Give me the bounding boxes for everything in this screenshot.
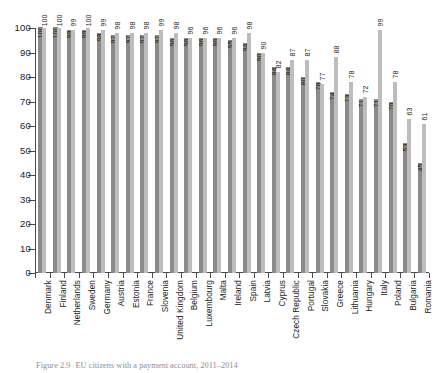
bar-2014[interactable]: 99 xyxy=(159,30,163,273)
bar-2014[interactable]: 98 xyxy=(144,33,148,273)
x-axis-tick xyxy=(268,273,269,278)
bar-2014[interactable]: 100 xyxy=(42,28,46,273)
x-axis-label-romania: Romania xyxy=(425,280,433,313)
bar-group[interactable]: 9798 xyxy=(108,28,123,273)
bar-value-label: 99 xyxy=(376,19,383,27)
bar-value-label: 78 xyxy=(391,71,398,79)
bar-2014[interactable]: 77 xyxy=(320,84,324,273)
x-axis: DenmarkFinlandNetherlandsSwedenGermanyAu… xyxy=(35,273,429,373)
bar-value-label: 96 xyxy=(201,26,208,34)
bar-group[interactable]: 99100 xyxy=(79,28,94,273)
x-axis-tick xyxy=(298,273,299,278)
x-axis-tick xyxy=(327,273,328,278)
bar-2014[interactable]: 63 xyxy=(407,119,411,273)
bar-group[interactable]: 100100 xyxy=(35,28,50,273)
x-axis-tick xyxy=(50,273,51,278)
bar-value-label: 100 xyxy=(55,15,62,27)
bar-group[interactable]: 9899 xyxy=(93,28,108,273)
plot-area: 0102030405060708090100 10010010010099999… xyxy=(35,28,429,273)
bar-group[interactable]: 7078 xyxy=(385,28,400,273)
x-axis-label-france: France xyxy=(147,280,155,306)
x-axis-tick xyxy=(254,273,255,278)
bar-group[interactable]: 100100 xyxy=(50,28,65,273)
bar-value-label: 61 xyxy=(420,112,427,120)
x-axis-label-bulgaria: Bulgaria xyxy=(410,280,418,311)
bar-value-label: 98 xyxy=(114,22,121,30)
bar-group[interactable]: 9798 xyxy=(137,28,152,273)
x-axis-tick xyxy=(181,273,182,278)
bar-group[interactable]: 8482 xyxy=(268,28,283,273)
y-axis-label: 70 xyxy=(20,97,31,107)
x-axis-tick xyxy=(196,273,197,278)
x-axis-label-latvia: Latvia xyxy=(264,280,272,302)
x-axis-label-lithuania: Lithuania xyxy=(352,280,360,314)
y-axis-label: 10 xyxy=(20,244,31,254)
figure-caption: Figure 2.9EU citizens with a payment acc… xyxy=(36,361,436,371)
bar-2014[interactable]: 99 xyxy=(378,30,382,273)
bar-value-label: 98 xyxy=(128,22,135,30)
bar-group[interactable]: 5363 xyxy=(400,28,415,273)
bar-group[interactable]: 9999 xyxy=(64,28,79,273)
bar-2014[interactable]: 87 xyxy=(290,60,294,273)
bar-2014[interactable]: 100 xyxy=(57,28,61,273)
bar-2014[interactable]: 100 xyxy=(86,28,90,273)
bar-group[interactable]: 9498 xyxy=(239,28,254,273)
bar-group[interactable]: 4561 xyxy=(414,28,429,273)
bar-2014[interactable]: 96 xyxy=(217,38,221,273)
x-axis-tick xyxy=(93,273,94,278)
bar-group[interactable]: 9696 xyxy=(181,28,196,273)
y-axis-label: 100 xyxy=(15,23,31,33)
x-axis-tick xyxy=(64,273,65,278)
bar-group[interactable]: 9799 xyxy=(152,28,167,273)
bar-2014[interactable]: 96 xyxy=(232,38,236,273)
bar-value-label: 63 xyxy=(406,107,413,115)
x-axis-label-finland: Finland xyxy=(60,280,68,308)
x-axis-tick xyxy=(210,273,211,278)
x-axis-tick xyxy=(356,273,357,278)
bar-2014[interactable]: 78 xyxy=(393,82,397,273)
bar-2014[interactable]: 98 xyxy=(130,33,134,273)
bar-group[interactable]: 7378 xyxy=(341,28,356,273)
bar-group[interactable]: 7877 xyxy=(312,28,327,273)
bar-2014[interactable]: 88 xyxy=(334,57,338,273)
caption-number: Figure 2.9 xyxy=(36,361,70,370)
bar-2014[interactable]: 72 xyxy=(363,97,367,273)
x-axis-label-slovenia: Slovenia xyxy=(162,280,170,312)
bar-group[interactable]: 8087 xyxy=(298,28,313,273)
bar-2014[interactable]: 78 xyxy=(349,82,353,273)
y-axis-label: 60 xyxy=(20,121,31,131)
bar-group[interactable]: 7488 xyxy=(327,28,342,273)
bar-value-label: 77 xyxy=(318,73,325,81)
bar-2014[interactable]: 90 xyxy=(261,53,265,274)
bar-2014[interactable]: 87 xyxy=(305,60,309,273)
x-axis-label-hungary: Hungary xyxy=(366,280,374,312)
x-axis-label-ireland: Ireland xyxy=(235,280,243,306)
bar-group[interactable]: 7199 xyxy=(371,28,386,273)
bar-value-label: 99 xyxy=(158,19,165,27)
bar-value-label: 88 xyxy=(333,46,340,54)
bar-2014[interactable]: 98 xyxy=(247,33,251,273)
bar-group[interactable]: 9698 xyxy=(166,28,181,273)
bar-2014[interactable]: 96 xyxy=(203,38,207,273)
bar-group[interactable]: 9596 xyxy=(225,28,240,273)
bar-2014[interactable]: 98 xyxy=(115,33,119,273)
bar-value-label: 100 xyxy=(41,15,48,27)
bar-group[interactable]: 7172 xyxy=(356,28,371,273)
bar-group[interactable]: 9090 xyxy=(254,28,269,273)
bar-group[interactable]: 8487 xyxy=(283,28,298,273)
x-axis-tick xyxy=(429,273,430,278)
bar-value-label: 96 xyxy=(187,26,194,34)
bar-group[interactable]: 9696 xyxy=(210,28,225,273)
bar-group[interactable]: 9696 xyxy=(196,28,211,273)
bar-value-label: 98 xyxy=(172,22,179,30)
bar-2014[interactable]: 98 xyxy=(174,33,178,273)
bar-2014[interactable]: 61 xyxy=(422,124,426,273)
bar-value-label: 99 xyxy=(99,19,106,27)
bar-2014[interactable]: 99 xyxy=(101,30,105,273)
bar-2014[interactable]: 82 xyxy=(276,72,280,273)
bar-2014[interactable]: 99 xyxy=(71,30,75,273)
x-axis-tick xyxy=(312,273,313,278)
bar-group[interactable]: 9798 xyxy=(123,28,138,273)
x-axis-label-greece: Greece xyxy=(337,280,345,307)
bar-2014[interactable]: 96 xyxy=(188,38,192,273)
